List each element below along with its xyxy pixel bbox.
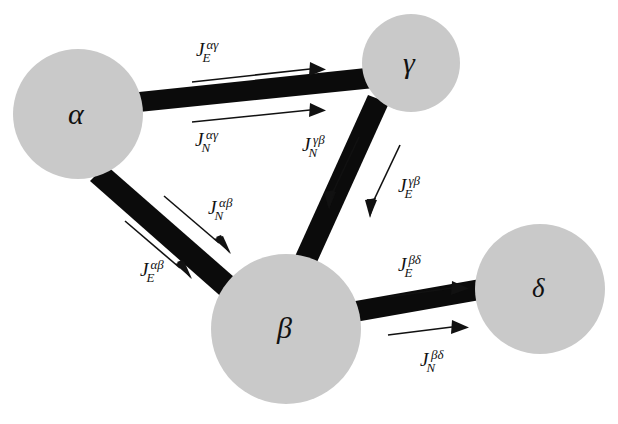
flux-label-JE-beta-delta: JEβδ (398, 253, 421, 279)
flux-superscript: βδ (408, 252, 421, 267)
flux-label-JN-beta-delta: JNβδ (420, 348, 444, 374)
flux-superscript: αβ (219, 195, 232, 210)
node-label-gamma: γ (403, 48, 415, 78)
flux-diagram-canvas: α γ β δ JEαγ JNαγ JNαβ JEαβ JNγβ JEγβ JE… (0, 0, 618, 424)
arrow-JN-beta-delta (388, 320, 469, 335)
flux-label-JE-alpha-gamma: JEαγ (196, 38, 218, 64)
flux-label-JN-alpha-beta: JNαβ (208, 196, 232, 222)
node-label-beta: β (277, 313, 292, 343)
bond-beta-delta (344, 276, 497, 324)
diagram-vector-layer (0, 0, 618, 424)
flux-label-JN-alpha-gamma: JNαγ (195, 128, 218, 154)
flux-superscript: αγ (206, 127, 218, 142)
flux-superscript: γβ (313, 132, 325, 147)
flux-superscript: γβ (408, 173, 420, 188)
flux-label-JN-gamma-beta: JNγβ (302, 133, 325, 159)
flux-superscript: αβ (150, 257, 163, 272)
bond-gamma-beta (287, 95, 389, 282)
flux-superscript: βδ (431, 347, 444, 362)
flux-label-JE-alpha-beta: JEαβ (140, 258, 164, 284)
arrow-JN-alpha-gamma (192, 103, 326, 122)
arrow-JE-gamma-beta (365, 145, 400, 218)
node-label-delta: δ (532, 275, 545, 302)
node-label-alpha: α (68, 99, 84, 129)
flux-label-JE-gamma-beta: JEγβ (398, 174, 420, 200)
flux-superscript: αγ (206, 37, 218, 52)
